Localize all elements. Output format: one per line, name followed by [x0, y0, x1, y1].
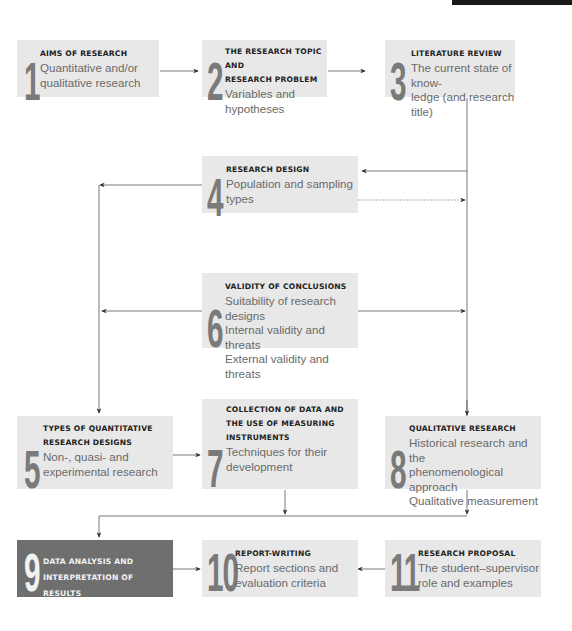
step-9-title-line-1: DATA ANALYSIS AND: [43, 554, 173, 570]
step-1-number: 1: [24, 54, 39, 108]
step-11-desc-line-2: role and examples: [418, 576, 539, 591]
step-4-number: 4: [207, 170, 222, 224]
step-1-desc-line-2: qualitative research: [40, 76, 141, 91]
step-8-box: 8 Qualitative research Historical resear…: [385, 416, 541, 489]
step-10-box: 10 Report-writing Report sections and ev…: [202, 540, 358, 597]
step-7-desc-line-1: Techniques for their: [226, 445, 344, 460]
step-6-desc-line-1: Suitability of research designs: [225, 294, 358, 323]
step-11-title: Research proposal: [418, 547, 539, 561]
step-7-title-line-3: INSTRUMENTS: [226, 431, 344, 445]
step-9-title-line-2: INTERPRETATION OF RESULTS: [43, 570, 173, 602]
step-7-box: 7 COLLECTION OF DATA AND THE USE OF MEAS…: [202, 399, 358, 489]
step-4-title: Research design: [226, 163, 353, 177]
step-10-title: Report-writing: [235, 547, 338, 561]
step-4-desc-line-1: Population and sampling: [226, 177, 353, 192]
step-5-number: 5: [24, 442, 39, 496]
step-1-box: 1 Aims of research Quantitative and/or q…: [17, 40, 159, 97]
step-8-number: 8: [390, 442, 405, 496]
step-5-desc-line-2: experimental research: [43, 465, 158, 480]
step-8-desc-line-1: Historical research and the: [409, 436, 541, 465]
step-7-desc-line-2: development: [226, 460, 344, 475]
step-3-desc-line-2: ledge (and research title): [411, 90, 515, 119]
step-6-number: 6: [207, 301, 222, 355]
step-11-number: 11: [390, 545, 419, 599]
step-4-box: 4 Research design Population and samplin…: [202, 156, 358, 213]
step-7-number: 7: [207, 441, 222, 495]
step-6-desc-line-2: Internal validity and threats: [225, 323, 358, 352]
step-4-desc-line-2: types: [226, 192, 353, 207]
step-9-box: 9 DATA ANALYSIS AND INTERPRETATION OF RE…: [17, 540, 173, 597]
step-5-title-line-1: TYPES OF QUANTITATIVE: [43, 422, 158, 436]
step-3-title: Literature review: [411, 47, 515, 61]
step-3-number: 3: [390, 54, 405, 108]
step-6-desc-line-3: External validity and threats: [225, 352, 358, 381]
step-7-title-line-1: COLLECTION OF DATA AND: [226, 403, 344, 417]
step-5-box: 5 TYPES OF QUANTITATIVE RESEARCH DESIGNS…: [17, 416, 173, 489]
step-8-title: Qualitative research: [409, 422, 541, 436]
step-1-title: Aims of research: [40, 47, 141, 61]
step-10-desc-line-2: evaluation criteria: [235, 576, 338, 591]
step-5-title-line-2: RESEARCH DESIGNS: [43, 436, 158, 450]
step-1-desc-line-1: Quantitative and/or: [40, 61, 141, 76]
step-11-desc-line-1: The student–supervisor: [418, 561, 539, 576]
step-2-title-line-2: RESEARCH PROBLEM: [225, 73, 327, 87]
step-3-box: 3 Literature review The current state of…: [385, 40, 515, 97]
step-8-desc-line-3: Qualitative measurement: [409, 494, 541, 509]
step-8-desc-line-2: phenomenological approach: [409, 465, 541, 494]
step-6-box: 6 Validity of conclusions Suitability of…: [202, 273, 358, 348]
step-2-desc-line-1: Variables and hypotheses: [225, 87, 327, 116]
step-2-title-line-1: THE RESEARCH TOPIC AND: [225, 45, 327, 73]
step-9-number: 9: [24, 545, 39, 599]
step-7-title-line-2: THE USE OF MEASURING: [226, 417, 344, 431]
step-3-desc-line-1: The current state of know-: [411, 61, 515, 90]
step-6-title: Validity of conclusions: [225, 280, 358, 294]
step-10-number: 10: [207, 545, 238, 599]
step-2-number: 2: [207, 54, 222, 108]
step-10-desc-line-1: Report sections and: [235, 561, 338, 576]
step-11-box: 11 Research proposal The student–supervi…: [385, 540, 541, 597]
step-5-desc-line-1: Non-, quasi- and: [43, 450, 158, 465]
step-2-box: 2 THE RESEARCH TOPIC AND RESEARCH PROBLE…: [202, 40, 327, 97]
